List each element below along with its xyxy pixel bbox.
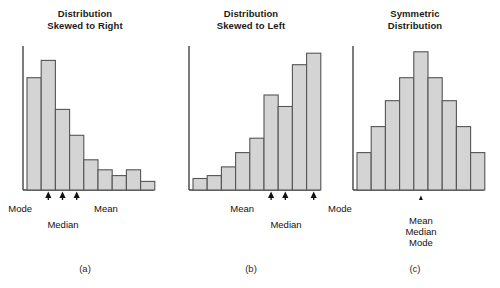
bar-group [27,60,155,190]
bar-6 [264,95,278,190]
panel-b-title-line1: Distribution [168,8,334,20]
arrow-head-median [59,192,65,199]
bar-2 [371,127,385,190]
bar-1 [357,153,371,190]
marker-label-mode: Mode [2,203,32,214]
marker-arrows [418,196,424,201]
marker-label-mode: Mode [394,237,448,248]
bar-5 [250,138,264,190]
panel-c-caption: (c) [332,263,498,274]
arrow-head-mean [74,192,80,199]
marker-label-mean: Mean [212,203,254,214]
bar-6 [428,78,442,190]
arrow-head-mode [45,192,51,199]
bar-8 [292,65,306,190]
bar-7 [112,176,126,190]
panel-c-svg [332,40,498,200]
panel-skewed-right: Distribution Skewed to Right [2,0,168,288]
arrow-head-mode [311,192,317,199]
bar-8 [456,127,470,190]
bar-group [193,53,321,190]
bar-8 [126,170,140,190]
panel-b-histogram [168,40,334,200]
bar-2 [207,176,221,190]
bar-2 [41,60,55,190]
panel-c-histogram [332,40,498,200]
bar-1 [27,78,41,190]
panel-skewed-left: Distribution Skewed to Left [168,0,334,288]
bar-5 [414,52,428,190]
panel-c-title-line1: Symmetric [332,8,498,20]
panel-a-title-line2: Skewed to Right [2,20,168,32]
arrow-head-center [418,196,424,201]
panel-a-title-line1: Distribution [2,8,168,20]
marker-label-mean: Mean [94,203,118,214]
bar-4 [70,135,84,190]
panel-c-title: Symmetric Distribution [332,8,498,31]
panel-a-svg [2,40,168,200]
statistics-distribution-figure: Distribution Skewed to Right [0,0,500,288]
bar-9 [141,181,155,190]
arrow-head-median [282,192,288,199]
bar-5 [84,160,98,190]
marker-label-stack: Mean Median Mode [394,215,448,248]
panel-b-svg [168,40,334,200]
panel-a-caption: (a) [2,263,168,274]
marker-arrows [268,192,317,201]
bar-group [357,52,485,190]
panel-b-caption: (b) [168,263,334,274]
panel-a-title: Distribution Skewed to Right [2,8,168,31]
marker-label-mean: Mean [394,215,448,226]
panel-a-histogram [2,40,168,200]
panel-symmetric: Symmetric Distribution [332,0,498,288]
marker-label-median: Median [261,219,311,230]
marker-label-median: Median [38,219,88,230]
bar-3 [385,101,399,190]
panel-b-title: Distribution Skewed to Left [168,8,334,31]
arrow-head-mean [268,192,274,199]
bar-7 [278,107,292,191]
bar-9 [307,53,321,190]
bar-1 [193,179,207,191]
bar-3 [55,109,69,190]
bar-3 [221,167,235,190]
bar-4 [400,78,414,190]
bar-7 [442,101,456,190]
bar-9 [471,153,485,190]
marker-label-median: Median [394,226,448,237]
bar-6 [98,170,112,190]
marker-arrows [45,192,80,201]
panel-b-title-line2: Skewed to Left [168,20,334,32]
bar-4 [236,153,250,190]
panel-c-title-line2: Distribution [332,20,498,32]
